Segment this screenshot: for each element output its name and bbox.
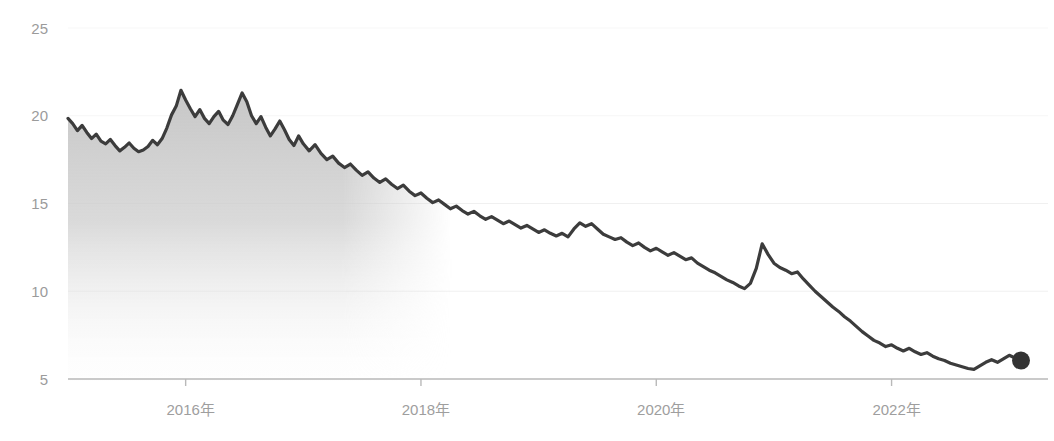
x-axis-label-2022: 2022年 — [872, 401, 920, 418]
line-area-chart: 510152025 2016年2018年2020年2022年 — [0, 0, 1054, 441]
y-axis-label-15: 15 — [31, 195, 48, 212]
chart-container: 510152025 2016年2018年2020年2022年 — [0, 0, 1054, 441]
area-fill — [68, 90, 1021, 381]
y-axis-label-20: 20 — [31, 107, 48, 124]
x-axis-label-2018: 2018年 — [402, 401, 450, 418]
y-axis-label-10: 10 — [31, 283, 48, 300]
area-path — [68, 90, 1021, 381]
x-axis-label-2016: 2016年 — [166, 401, 214, 418]
end-point-marker — [1012, 352, 1030, 370]
x-axis-labels: 2016年2018年2020年2022年 — [166, 401, 920, 418]
latest-value-dot[interactable] — [1012, 352, 1030, 370]
y-axis-label-25: 25 — [31, 20, 48, 37]
y-axis-label-5: 5 — [40, 371, 48, 388]
y-axis-labels: 510152025 — [31, 20, 48, 388]
x-axis-label-2020: 2020年 — [637, 401, 685, 418]
